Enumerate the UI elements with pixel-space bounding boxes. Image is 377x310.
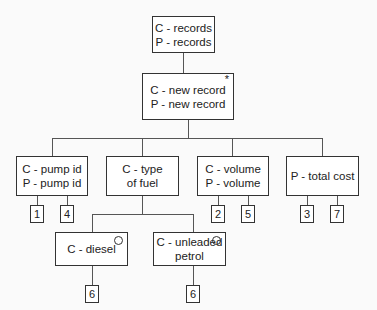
connector <box>218 195 219 205</box>
total-cost-box: P - total cost <box>286 156 359 196</box>
box-line: C - diesel <box>67 242 116 256</box>
box-line: C - volume <box>205 162 261 176</box>
connector <box>193 214 194 232</box>
volume-box: C - volume P - volume <box>197 156 269 196</box>
operation-box: 6 <box>85 285 99 303</box>
jsp-structure-diagram: C - records P - records * C - new record… <box>0 0 377 310</box>
box-line: petrol <box>175 249 204 263</box>
box-line: P - records <box>155 35 211 49</box>
box-line: C - pump id <box>22 162 81 176</box>
box-line: C - new record <box>150 83 225 97</box>
connector <box>307 195 308 205</box>
connector <box>188 119 189 138</box>
operation-box: 1 <box>30 205 44 223</box>
selection-marker <box>114 236 123 245</box>
operation-box: 4 <box>60 205 74 223</box>
connector <box>337 195 338 205</box>
connector <box>52 138 323 139</box>
operation-box: 6 <box>186 285 200 303</box>
connector <box>183 52 184 73</box>
connector <box>232 138 233 156</box>
connector <box>92 214 93 232</box>
box-line: C - type <box>122 162 162 176</box>
iteration-marker: * <box>225 74 229 85</box>
operation-box: 2 <box>211 205 225 223</box>
operation-box: 5 <box>241 205 255 223</box>
box-line: P - pump id <box>23 176 82 190</box>
connector <box>248 195 249 205</box>
box-line: P - total cost <box>291 169 355 183</box>
operation-box: 3 <box>300 205 314 223</box>
unleaded-petrol-box: C - unleaded petrol <box>153 232 226 266</box>
connector <box>322 138 323 156</box>
connector <box>92 265 93 285</box>
connector <box>92 214 193 215</box>
diesel-box: C - diesel <box>55 232 128 266</box>
connector <box>142 138 143 156</box>
new-record-box: * C - new record P - new record <box>142 73 234 120</box>
pump-id-box: C - pump id P - pump id <box>16 156 88 196</box>
box-line: P - volume <box>206 176 261 190</box>
records-box: C - records P - records <box>152 16 215 53</box>
connector <box>37 195 38 205</box>
operation-box: 7 <box>330 205 344 223</box>
type-of-fuel-box: C - type of fuel <box>106 156 179 196</box>
selection-marker <box>212 236 221 245</box>
connector <box>67 195 68 205</box>
connector <box>52 138 53 156</box>
connector <box>142 195 143 214</box>
box-line: P - new record <box>151 97 226 111</box>
box-line: of fuel <box>127 176 158 190</box>
connector <box>193 265 194 285</box>
box-line: C - records <box>155 21 212 35</box>
